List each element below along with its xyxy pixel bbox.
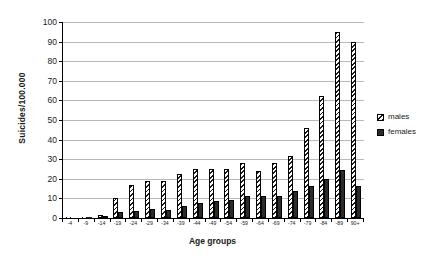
- bar-females--34: [166, 210, 171, 218]
- bar-group: [285, 22, 301, 218]
- x-axis-tick-label: -29: [141, 221, 157, 226]
- x-axis-tick-label: -49: [205, 221, 221, 226]
- bar-females--44: [198, 203, 203, 218]
- bar-females--74: [293, 191, 298, 218]
- x-axis-tick-label: -89: [331, 221, 347, 226]
- bar-group: [63, 22, 79, 218]
- x-axis-title: Age groups: [62, 236, 363, 246]
- bar-group: [221, 22, 237, 218]
- bar-groups: [63, 22, 364, 218]
- x-axis-tick-label: -19: [110, 221, 126, 226]
- legend-swatch-males-icon: [377, 114, 384, 121]
- bar-group: [348, 22, 364, 218]
- x-axis-tick-label: -64: [252, 221, 268, 226]
- bar-group: [174, 22, 190, 218]
- x-axis-tick-label: 90+: [347, 221, 363, 226]
- bar-females--39: [182, 206, 187, 218]
- bar-group: [111, 22, 127, 218]
- y-axis-tick-label: 80: [48, 57, 57, 66]
- bar-group: [79, 22, 95, 218]
- x-axis-tick-label: -34: [157, 221, 173, 226]
- x-axis-tick-label: -59: [236, 221, 252, 226]
- x-axis-tick-label: -9: [78, 221, 94, 226]
- x-axis-tick-label: -44: [189, 221, 205, 226]
- bar-females--84: [324, 179, 329, 218]
- bar-group: [269, 22, 285, 218]
- bar-females--59: [245, 196, 250, 218]
- x-axis-tick-label: -79: [300, 221, 316, 226]
- y-axis-tick-label: 100: [43, 18, 57, 27]
- bar-females--69: [277, 196, 282, 218]
- bar-group: [206, 22, 222, 218]
- x-axis-tick-label: -24: [125, 221, 141, 226]
- y-axis-tick-label: 10: [48, 194, 57, 203]
- legend: males females: [377, 113, 416, 136]
- bar-group: [332, 22, 348, 218]
- bar-females--49: [214, 201, 219, 218]
- bar-females--79: [309, 186, 314, 218]
- bar-group: [301, 22, 317, 218]
- bar-group: [190, 22, 206, 218]
- legend-item-females: females: [377, 128, 416, 136]
- y-axis-tick-label: 90: [48, 37, 57, 46]
- bar-females--29: [150, 209, 155, 218]
- plot-area: 0102030405060708090100: [62, 22, 364, 219]
- legend-swatch-females-icon: [377, 129, 384, 136]
- bar-group: [95, 22, 111, 218]
- x-axis-tick-label: -54: [220, 221, 236, 226]
- bar-females--54: [229, 200, 234, 218]
- y-axis-tick-label: 70: [48, 77, 57, 86]
- y-axis-tick-label: 30: [48, 155, 57, 164]
- legend-item-males: males: [377, 113, 416, 121]
- y-axis-tick-label: 50: [48, 116, 57, 125]
- x-axis-tick-label: -84: [316, 221, 332, 226]
- x-axis-tick-label: -69: [268, 221, 284, 226]
- bar-females-90+: [356, 186, 361, 218]
- x-axis-tick-label: -74: [284, 221, 300, 226]
- y-axis-tick-label: 60: [48, 96, 57, 105]
- y-axis-tick-label: 40: [48, 135, 57, 144]
- x-axis-tick-label: -4: [62, 221, 78, 226]
- bar-group: [142, 22, 158, 218]
- bar-group: [253, 22, 269, 218]
- x-axis-tick-labels: -4-9-14-19-24-29-34-39-44-49-54-59-64-69…: [62, 221, 363, 226]
- bar-females--64: [261, 196, 266, 218]
- y-axis-title: Suicides/100.000: [17, 38, 27, 178]
- bar-group: [158, 22, 174, 218]
- suicide-rate-bar-chart: Suicides/100.000 0102030405060708090100 …: [0, 0, 438, 260]
- bar-females--89: [340, 170, 345, 218]
- bar-females--24: [134, 211, 139, 218]
- y-axis-tick-label: 0: [52, 214, 57, 223]
- x-axis-tick-label: -39: [173, 221, 189, 226]
- legend-label-males: males: [388, 113, 409, 121]
- x-axis-tick-label: -14: [94, 221, 110, 226]
- x-axis-tick: [363, 218, 364, 222]
- legend-label-females: females: [388, 128, 416, 136]
- bar-group: [237, 22, 253, 218]
- y-axis-tick-label: 20: [48, 175, 57, 184]
- bar-group: [317, 22, 333, 218]
- bar-group: [126, 22, 142, 218]
